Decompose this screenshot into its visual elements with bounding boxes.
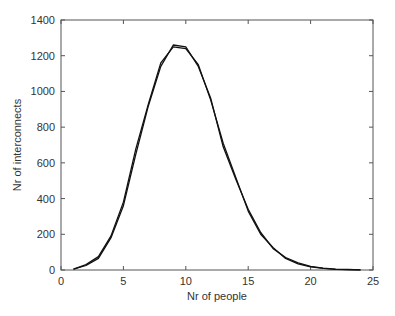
plot-frame bbox=[61, 20, 373, 270]
y-tick-label: 400 bbox=[37, 193, 55, 205]
x-tick-label: 20 bbox=[304, 275, 316, 287]
line-series-1 bbox=[74, 45, 361, 270]
x-tick-label: 5 bbox=[120, 275, 126, 287]
x-axis-label: Nr of people bbox=[187, 290, 247, 302]
y-tick-label: 600 bbox=[37, 157, 55, 169]
line-chart: 05101520250200400600800100012001400 Nr o… bbox=[0, 0, 395, 316]
data-lines bbox=[74, 45, 361, 270]
x-tick-label: 0 bbox=[58, 275, 64, 287]
x-tick-label: 15 bbox=[242, 275, 254, 287]
plot-area: 05101520250200400600800100012001400 bbox=[31, 14, 380, 287]
y-tick-label: 800 bbox=[37, 121, 55, 133]
x-tick-label: 10 bbox=[180, 275, 192, 287]
y-axis-label: Nr of interconnects bbox=[11, 98, 23, 191]
y-tick-label: 200 bbox=[37, 228, 55, 240]
y-tick-label: 1000 bbox=[31, 85, 55, 97]
x-tick-label: 25 bbox=[367, 275, 379, 287]
y-tick-label: 1200 bbox=[31, 50, 55, 62]
y-tick-label: 0 bbox=[49, 264, 55, 276]
line-series-2 bbox=[74, 47, 361, 270]
y-tick-label: 1400 bbox=[31, 14, 55, 26]
